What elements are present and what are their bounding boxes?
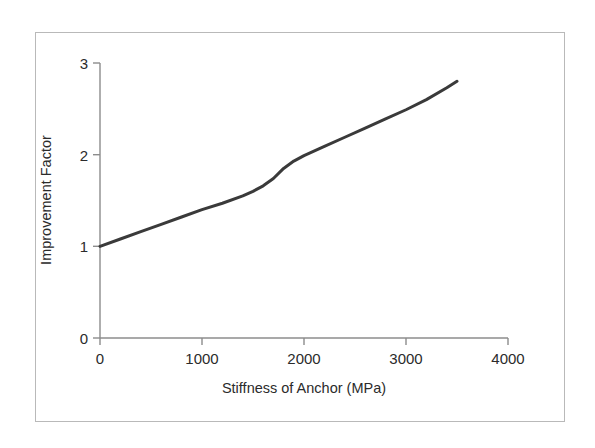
chart-figure: 3 2 1 0 0 1000 2000 3000 4000 Stiffness … xyxy=(0,0,595,448)
y-tick-label-3: 3 xyxy=(80,55,88,72)
x-tick-label-0: 0 xyxy=(96,350,104,367)
x-tick-label-2000: 2000 xyxy=(287,350,320,367)
x-tick-label-1000: 1000 xyxy=(185,350,218,367)
y-tick-label-2: 2 xyxy=(80,147,88,164)
x-tick-label-3000: 3000 xyxy=(389,350,422,367)
y-axis-title: Improvement Factor xyxy=(38,135,54,265)
y-tick-label-0: 0 xyxy=(80,330,88,347)
x-axis-title: Stiffness of Anchor (MPa) xyxy=(100,380,508,396)
x-tick-label-4000: 4000 xyxy=(491,350,524,367)
y-tick-label-1: 1 xyxy=(80,238,88,255)
